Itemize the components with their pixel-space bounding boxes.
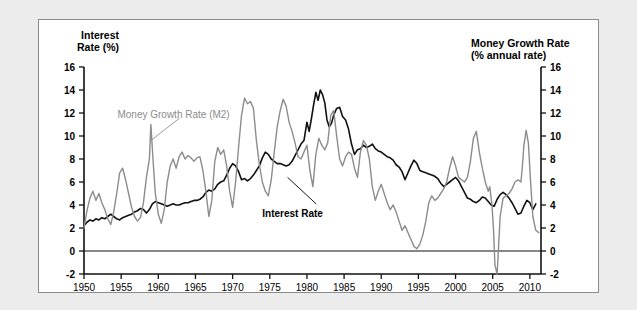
x-tick-label: 1970 xyxy=(221,282,244,292)
y2-tick-label: 8 xyxy=(550,154,556,165)
x-tick-label: 1950 xyxy=(73,282,96,292)
left-axis-title-line2: Rate (%) xyxy=(41,41,119,53)
y2-tick-label: 10 xyxy=(550,131,562,142)
y2-tick-label: 12 xyxy=(550,108,562,119)
y-tick-label: 6 xyxy=(69,177,75,188)
y-tick-label: 12 xyxy=(64,108,76,119)
annotation-label-interest-rate: Interest Rate xyxy=(262,208,323,219)
y-tick-label: 14 xyxy=(64,85,76,96)
y-tick-label: 2 xyxy=(69,223,75,234)
x-tick-label: 1960 xyxy=(147,282,170,292)
y2-tick-label: 4 xyxy=(550,200,556,211)
left-axis-title-line1: Interest xyxy=(41,29,119,41)
series-line-money-growth-rate-m2 xyxy=(84,98,539,274)
right-axis-title: Money Growth Rate (% annual rate) xyxy=(471,37,595,61)
x-tick-label: 2000 xyxy=(444,282,467,292)
y-tick-label: -2 xyxy=(66,269,75,280)
right-axis-title-line1: Money Growth Rate xyxy=(471,37,595,49)
x-tick-label: 2010 xyxy=(519,282,542,292)
y2-tick-label: 14 xyxy=(550,85,562,96)
y2-tick-label: 6 xyxy=(550,177,556,188)
annotation-leader-money-growth-rate xyxy=(151,118,180,140)
x-tick-label: 1980 xyxy=(296,282,319,292)
x-tick-label: 1990 xyxy=(370,282,393,292)
y2-tick-label: -2 xyxy=(550,269,559,280)
x-tick-label: 1955 xyxy=(110,282,133,292)
left-axis-title: Interest Rate (%) xyxy=(41,29,119,53)
y-tick-label: 16 xyxy=(64,62,76,73)
x-tick-label: 1975 xyxy=(259,282,282,292)
y2-tick-label: 2 xyxy=(550,223,556,234)
y2-tick-label: 16 xyxy=(550,62,562,73)
y2-tick-label: 0 xyxy=(550,246,556,257)
y-tick-label: 0 xyxy=(69,246,75,257)
x-tick-label: 1985 xyxy=(333,282,356,292)
y-tick-label: 10 xyxy=(64,131,76,142)
y-tick-label: 4 xyxy=(69,200,75,211)
annotation-label-money-growth-rate: Money Growth Rate (M2) xyxy=(117,109,229,120)
x-tick-label: 2005 xyxy=(482,282,505,292)
figure-panel: -20246810121416-202468101214161950195519… xyxy=(38,19,599,293)
right-axis-title-line2: (% annual rate) xyxy=(471,49,595,61)
x-tick-label: 1965 xyxy=(184,282,207,292)
x-tick-label: 1995 xyxy=(407,282,430,292)
y-tick-label: 8 xyxy=(69,154,75,165)
